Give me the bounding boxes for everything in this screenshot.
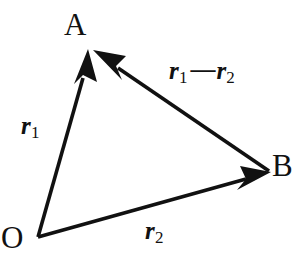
vector-label-difference-subscript-2: 2 — [226, 68, 235, 87]
vector-r1-arrowhead — [74, 49, 97, 84]
vector-label-r2-base: r — [145, 217, 155, 244]
vector-label-r1: r1 — [21, 113, 39, 141]
vector-r2-shaft — [38, 179, 246, 237]
minus-operator-icon: — — [187, 55, 216, 82]
vector-label-r1-subscript: 1 — [31, 123, 40, 142]
vector-label-difference: r1—r2 — [169, 58, 235, 86]
point-label-o: O — [1, 222, 23, 253]
vector-r1-group — [38, 49, 97, 237]
point-label-b: B — [272, 150, 293, 181]
vector-r1-shaft — [38, 78, 83, 237]
vector-label-r1-base: r — [21, 112, 31, 139]
vector-difference-arrowhead — [93, 50, 126, 80]
point-label-a: A — [64, 9, 86, 40]
vector-triangle-diagram: A B O r1 r2 r1—r2 — [0, 0, 300, 270]
vector-label-r2-subscript: 2 — [155, 228, 164, 247]
vector-label-difference-base-1: r — [169, 57, 179, 84]
vector-label-difference-base-2: r — [216, 57, 226, 84]
vector-label-r2: r2 — [145, 218, 163, 246]
